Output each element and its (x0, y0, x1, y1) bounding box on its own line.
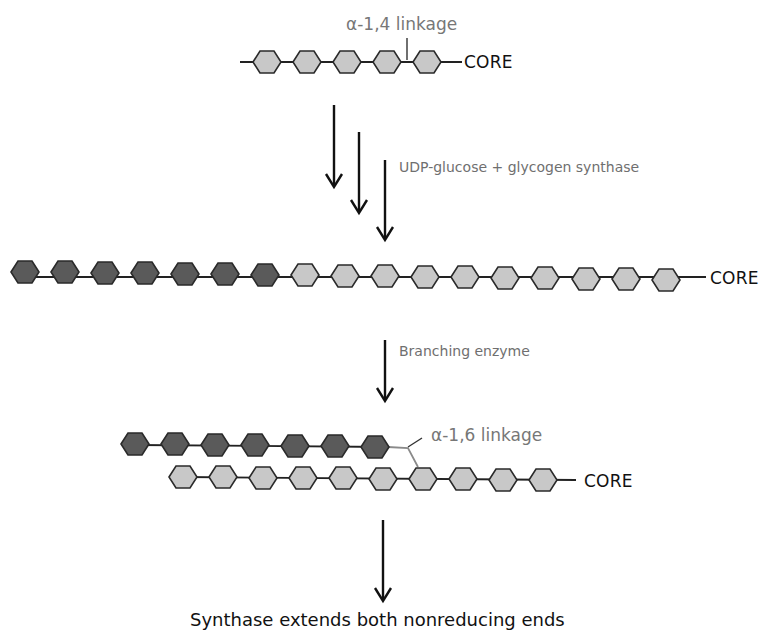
stage2-chain (11, 261, 706, 291)
glucose-residue (333, 51, 361, 73)
alpha16-pointer (408, 438, 422, 447)
alpha16-linkage-label: α-1,6 linkage (431, 425, 542, 445)
stage2-core-label: CORE (710, 268, 759, 288)
stage1-chain (240, 38, 462, 73)
stage3-core-label: CORE (584, 471, 633, 491)
step3-arrow (375, 520, 391, 601)
glucose-residue (293, 51, 321, 73)
step1-label: UDP-glucose + glycogen synthase (399, 159, 639, 175)
step1-arrows (326, 105, 393, 240)
step3-caption: Synthase extends both nonreducing ends (190, 609, 565, 630)
step2-arrow (377, 340, 393, 401)
alpha14-linkage-label: α-1,4 linkage (346, 14, 457, 34)
step2-label: Branching enzyme (399, 343, 530, 359)
glucose-residue (413, 51, 441, 73)
glucose-residue (373, 51, 401, 73)
glucose-residue (253, 51, 281, 73)
stage1-core-label: CORE (464, 52, 513, 72)
